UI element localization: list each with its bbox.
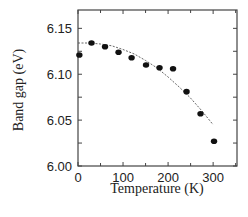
y-tick-label: 6.05 <box>47 113 72 128</box>
data-point <box>88 40 94 46</box>
y-tick-label: 6.10 <box>47 67 72 82</box>
data-point <box>211 138 217 144</box>
data-point <box>128 55 134 61</box>
fit-curve <box>78 43 213 125</box>
y-tick-label: 6.15 <box>47 21 72 36</box>
x-axis-title: Temperature (K) <box>110 181 204 197</box>
data-point <box>156 65 162 71</box>
x-tick-label: 300 <box>202 170 224 185</box>
y-tick-label: 6.00 <box>47 159 72 174</box>
data-point <box>102 44 108 50</box>
fit-line <box>78 43 213 125</box>
x-tick-label: 0 <box>74 170 81 185</box>
data-point <box>143 62 149 68</box>
data-point <box>197 111 203 117</box>
data-points <box>76 40 217 144</box>
band-gap-chart: 01002003006.006.056.106.15 Temperature (… <box>0 0 248 217</box>
data-point <box>170 66 176 72</box>
data-point <box>76 52 82 58</box>
data-point <box>183 89 189 95</box>
data-point <box>115 49 121 55</box>
y-axis-title: Band gap (eV) <box>11 48 27 131</box>
tick-labels: 01002003006.006.056.106.15 <box>47 21 224 185</box>
